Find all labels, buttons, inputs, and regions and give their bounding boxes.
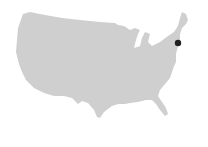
location-marker[interactable] bbox=[175, 40, 181, 46]
us-map bbox=[0, 0, 208, 147]
us-land-shape bbox=[16, 12, 188, 118]
